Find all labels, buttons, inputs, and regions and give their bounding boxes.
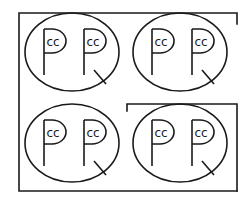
q-glyph: cc	[84, 120, 106, 175]
p-glyph: cc	[44, 120, 66, 166]
oval	[133, 13, 227, 91]
cc-label: cc	[154, 126, 167, 140]
cell-bottom-right: cccc	[133, 104, 227, 182]
cell-top-left: cccc	[25, 13, 119, 91]
cell-bottom-left: cccc	[25, 104, 119, 182]
q-glyph: cc	[84, 29, 106, 84]
oval	[25, 104, 119, 182]
diagram-canvas: cccccccccccccccc	[0, 0, 252, 200]
p-glyph: cc	[152, 29, 174, 75]
oval	[133, 104, 227, 182]
cc-label: cc	[194, 126, 207, 140]
tail-stroke	[202, 161, 214, 175]
cc-label: cc	[86, 126, 99, 140]
cell-top-right: cccc	[133, 13, 227, 91]
tail-stroke	[94, 70, 106, 84]
q-glyph: cc	[192, 29, 214, 84]
oval	[25, 13, 119, 91]
cc-label: cc	[86, 35, 99, 49]
cc-label: cc	[154, 35, 167, 49]
cc-label: cc	[194, 35, 207, 49]
tail-stroke	[202, 70, 214, 84]
p-glyph: cc	[152, 120, 174, 166]
tail-stroke	[94, 161, 106, 175]
cc-label: cc	[46, 35, 59, 49]
cc-label: cc	[46, 126, 59, 140]
q-glyph: cc	[192, 120, 214, 175]
inner-bracket	[127, 104, 237, 191]
p-glyph: cc	[44, 29, 66, 75]
